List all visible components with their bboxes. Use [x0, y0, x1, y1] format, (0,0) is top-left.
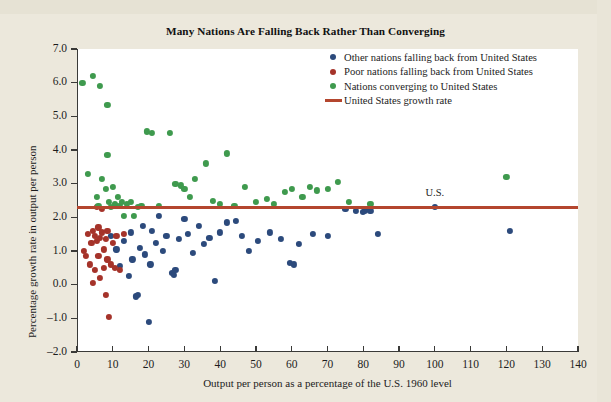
x-axis-title: Output per person as a percentage of the…: [77, 377, 578, 389]
legend-dot-icon: [330, 69, 336, 75]
data-point: [181, 216, 187, 222]
data-point: [117, 266, 123, 272]
data-point: [110, 239, 116, 245]
legend: Other nations falling back from United S…: [322, 50, 584, 108]
x-axis-tick-label: 40: [200, 358, 240, 370]
legend-item[interactable]: Poor nations falling back from United St…: [322, 65, 584, 80]
legend-line-swatch: [322, 99, 344, 102]
data-point: [281, 189, 287, 195]
paper-edge-right: [597, 0, 611, 402]
x-axis-tick-label: 130: [522, 358, 562, 370]
data-point: [335, 179, 341, 185]
data-point: [120, 238, 126, 244]
data-point: [137, 245, 143, 251]
data-point: [206, 234, 212, 240]
data-point: [135, 292, 141, 298]
data-point: [172, 266, 178, 272]
data-point: [128, 199, 134, 205]
data-point: [156, 213, 162, 219]
data-point: [104, 152, 110, 158]
data-point: [375, 231, 381, 237]
data-point: [149, 228, 155, 234]
data-point: [171, 271, 177, 277]
data-point: [217, 229, 223, 235]
data-point: [145, 319, 151, 325]
legend-item[interactable]: Other nations falling back from United S…: [322, 50, 584, 65]
data-point: [190, 250, 196, 256]
x-axis-tick-label: 140: [558, 358, 598, 370]
data-point: [101, 265, 107, 271]
data-point: [167, 130, 173, 136]
figure-container: Many Nations Are Falling Back Rather Tha…: [0, 0, 611, 402]
data-point: [324, 186, 330, 192]
data-point: [129, 256, 135, 262]
data-point: [147, 261, 153, 267]
data-point: [83, 253, 89, 259]
chart-title: Many Nations Are Falling Back Rather Tha…: [0, 25, 611, 37]
y-axis-tick-label: 0.0: [53, 277, 67, 289]
paper-edge-top: [0, 0, 611, 14]
data-point: [163, 233, 169, 239]
legend-item-label: United States growth rate: [344, 95, 452, 106]
x-axis-tick-label: 60: [272, 358, 312, 370]
data-point: [203, 160, 209, 166]
data-point: [97, 275, 103, 281]
data-point: [507, 228, 513, 234]
data-point: [90, 73, 96, 79]
y-axis-tick-label: –1.0: [47, 311, 67, 323]
data-point: [255, 238, 261, 244]
data-point: [176, 236, 182, 242]
y-axis-tick-label: 2.0: [53, 210, 67, 222]
x-axis-tick-label: 100: [415, 358, 455, 370]
data-point: [128, 229, 134, 235]
data-point: [346, 199, 352, 205]
legend-dot-swatch: [322, 83, 344, 89]
data-point: [131, 213, 137, 219]
data-point: [103, 186, 109, 192]
data-point: [101, 246, 107, 252]
data-point: [104, 101, 110, 107]
data-point: [140, 223, 146, 229]
data-point: [113, 233, 119, 239]
x-axis-tick-label: 120: [486, 358, 526, 370]
data-point: [181, 186, 187, 192]
legend-item-label: Poor nations falling back from United St…: [344, 66, 533, 77]
data-point: [113, 246, 119, 252]
legend-item[interactable]: Nations converging to United States: [322, 79, 584, 94]
data-point: [187, 194, 193, 200]
data-point: [92, 266, 98, 272]
legend-item-label: Nations converging to United States: [344, 81, 497, 92]
data-point: [246, 248, 252, 254]
data-point: [239, 233, 245, 239]
data-point: [196, 223, 202, 229]
us-annotation-label: U.S.: [426, 187, 445, 198]
y-axis-tick-label: 6.0: [53, 75, 67, 87]
data-point: [142, 251, 148, 257]
data-point: [97, 83, 103, 89]
x-axis-tick-label: 110: [451, 358, 491, 370]
data-point: [149, 130, 155, 136]
data-point: [103, 292, 109, 298]
data-point: [224, 150, 230, 156]
data-point: [314, 187, 320, 193]
y-axis-tick-label: 1.0: [53, 244, 67, 256]
y-axis-tick-label: –2.0: [47, 345, 67, 357]
data-point: [212, 278, 218, 284]
us-growth-rate-line: [77, 206, 578, 209]
data-point: [126, 273, 132, 279]
data-point: [110, 184, 116, 190]
x-axis-tick-label: 10: [93, 358, 133, 370]
data-point: [310, 231, 316, 237]
data-point: [299, 194, 305, 200]
y-axis-tick-label: 5.0: [53, 109, 67, 121]
data-point: [503, 174, 509, 180]
x-axis-tick-label: 20: [129, 358, 169, 370]
data-point: [201, 241, 207, 247]
data-point: [192, 176, 198, 182]
data-point: [307, 184, 313, 190]
data-point: [106, 314, 112, 320]
x-axis-tick-label: 70: [308, 358, 348, 370]
data-point: [253, 199, 259, 205]
data-point: [103, 236, 109, 242]
legend-item[interactable]: United States growth rate: [322, 94, 584, 109]
